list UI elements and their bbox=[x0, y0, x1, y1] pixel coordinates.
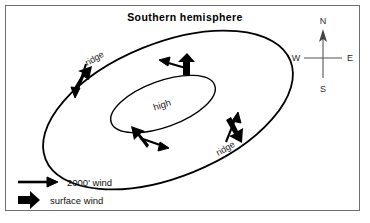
southern-hemisphere-wind-diagram: Southern hemisphere high ridge bbox=[0, 0, 370, 223]
compass-rose: N E S W bbox=[292, 16, 353, 94]
thick-short-arrow-icon bbox=[18, 191, 40, 209]
diagram-canvas: high ridge bbox=[0, 0, 370, 223]
legend-item-gradient-wind: 2000' wind bbox=[18, 177, 112, 188]
compass-east-label: E bbox=[347, 53, 353, 63]
ridge-label-lower-right-group: ridge bbox=[214, 139, 236, 158]
compass-south-label: S bbox=[320, 84, 326, 94]
legend-label-gradient-wind: 2000' wind bbox=[67, 177, 112, 188]
surface-wind-arrow-upper-left bbox=[74, 66, 92, 91]
compass-north-label: N bbox=[320, 16, 327, 26]
surface-wind-arrow-south bbox=[131, 126, 149, 148]
legend-label-surface-wind: surface wind bbox=[50, 195, 103, 206]
thin-long-arrowhead-icon bbox=[47, 177, 58, 187]
compass-west-label: W bbox=[292, 53, 301, 63]
legend-item-surface-wind: surface wind bbox=[18, 191, 103, 209]
high-pressure-label: high bbox=[152, 97, 172, 113]
surface-wind-arrow-north bbox=[178, 53, 195, 75]
outer-isobar bbox=[21, 0, 316, 222]
ridge-label-lower-right: ridge bbox=[214, 139, 236, 158]
legend: 2000' wind surface wind bbox=[18, 177, 112, 209]
